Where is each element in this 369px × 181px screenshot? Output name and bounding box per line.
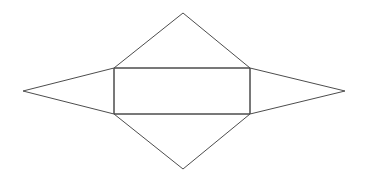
bottom-triangle-shape [114, 114, 250, 169]
left-triangle-shape [23, 68, 114, 114]
right-triangle-shape [250, 68, 345, 114]
top-triangle-shape [114, 13, 250, 68]
diagram-canvas [0, 0, 369, 181]
geometric-net-diagram [0, 0, 369, 181]
center-rectangle-shape [114, 68, 250, 114]
